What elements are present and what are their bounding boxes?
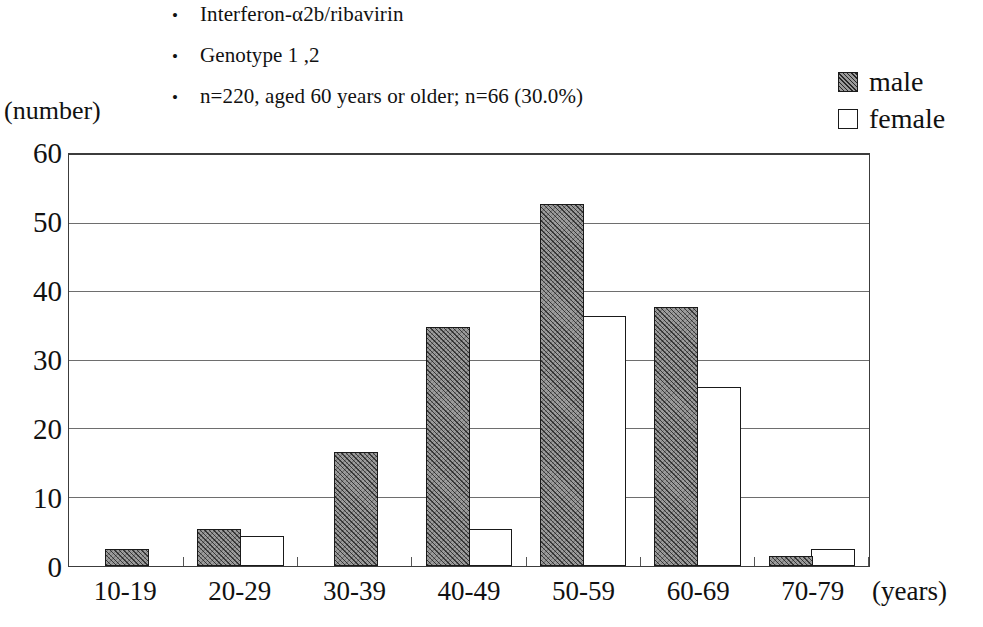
y-tick-label: 10 [4, 484, 62, 513]
bar-male-40-49 [426, 327, 470, 566]
y-axis-caption: (number) [4, 96, 101, 126]
x-tick-label: 50-59 [526, 578, 641, 605]
x-axis-tick-labels: 10-1920-2930-3940-4950-5960-6970-79 [68, 578, 870, 605]
note-text-1: Interferon-α2b/ribavirin [200, 2, 404, 27]
bar-group-10-19 [69, 155, 183, 566]
chart-legend: male female [838, 63, 945, 137]
bar-series-layer [69, 155, 869, 566]
bar-group-40-49 [412, 155, 526, 566]
bar-female-20-29 [240, 536, 284, 566]
legend-item-female: female [838, 100, 945, 137]
y-tick-label: 20 [4, 415, 62, 444]
bar-male-60-69 [654, 307, 698, 566]
y-tick-label: 0 [4, 553, 62, 582]
bar-male-50-59 [540, 204, 584, 566]
x-axis-unit-label: (years) [872, 578, 947, 605]
bar-group-20-29 [183, 155, 297, 566]
x-tick-mark [868, 557, 869, 566]
bullet-icon: • [172, 7, 200, 24]
list-item: • n=220, aged 60 years or older; n=66 (3… [172, 84, 792, 125]
x-tick-label: 70-79 [755, 578, 870, 605]
bar-group-60-69 [640, 155, 754, 566]
bar-male-10-19 [105, 549, 149, 566]
bar-male-70-79 [769, 556, 813, 566]
x-tick-label: 30-39 [297, 578, 412, 605]
legend-swatch-female-icon [838, 109, 858, 129]
bar-male-20-29 [197, 529, 241, 566]
y-tick-label: 40 [4, 277, 62, 306]
y-tick-label: 30 [4, 346, 62, 375]
note-text-2: Genotype 1 ,2 [200, 43, 320, 68]
legend-label-female: female [869, 105, 945, 133]
y-tick-label: 60 [4, 139, 62, 168]
notes-list: • Interferon-α2b/ribavirin • Genotype 1 … [172, 2, 792, 125]
legend-swatch-male-icon [838, 72, 858, 92]
bar-group-70-79 [755, 155, 869, 566]
list-item: • Interferon-α2b/ribavirin [172, 2, 792, 43]
chart-plot-area [68, 153, 870, 567]
legend-label-male: male [869, 68, 923, 96]
note-text-3: n=220, aged 60 years or older; n=66 (30.… [200, 84, 583, 109]
x-tick-label: 10-19 [68, 578, 183, 605]
bullet-icon: • [172, 89, 200, 106]
bar-female-40-49 [468, 529, 512, 566]
list-item: • Genotype 1 ,2 [172, 43, 792, 84]
y-tick-label: 50 [4, 208, 62, 237]
bar-female-50-59 [582, 316, 626, 566]
x-tick-label: 60-69 [641, 578, 756, 605]
legend-item-male: male [838, 63, 945, 100]
bar-female-60-69 [697, 387, 741, 566]
bar-male-30-39 [334, 452, 378, 566]
bar-female-70-79 [811, 549, 855, 566]
x-tick-label: 20-29 [183, 578, 298, 605]
bar-group-50-59 [526, 155, 640, 566]
x-tick-label: 40-49 [412, 578, 527, 605]
bar-group-30-39 [298, 155, 412, 566]
y-axis-tick-labels: 0102030405060 [0, 153, 62, 567]
bullet-icon: • [172, 48, 200, 65]
